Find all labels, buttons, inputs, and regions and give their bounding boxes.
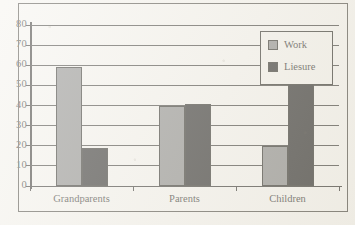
- x-tick-label-children: Children: [269, 193, 306, 204]
- x-tick-mark: [339, 186, 340, 191]
- chart-figure: 80706050403020100 GrandparentsParentsChi…: [0, 0, 355, 225]
- x-tick-label-parents: Parents: [169, 193, 200, 204]
- y-tick-label: 30: [1, 119, 27, 130]
- x-axis-line: [26, 186, 342, 187]
- legend-swatch-work-icon: [268, 40, 278, 50]
- bar-grandparents-work: [56, 67, 82, 186]
- chart-legend: Work Liesure: [260, 31, 333, 85]
- y-tick-label: 80: [1, 18, 27, 29]
- legend-label-liesure: Liesure: [284, 62, 316, 73]
- figure-frame-top-rule: [18, 3, 348, 4]
- x-tick-label-grandparents: Grandparents: [53, 193, 110, 204]
- y-tick-label: 60: [1, 58, 27, 69]
- y-tick-label: 50: [1, 78, 27, 89]
- y-tick-label: 70: [1, 38, 27, 49]
- legend-label-work: Work: [284, 40, 307, 51]
- y-tick-label: 10: [1, 159, 27, 170]
- bar-grandparents-liesure: [82, 148, 108, 186]
- legend-item-liesure: Liesure: [268, 62, 316, 73]
- figure-frame-bottom-rule: [18, 211, 348, 212]
- x-tick-mark: [30, 186, 31, 191]
- y-tick-label: 20: [1, 139, 27, 150]
- gridline: [30, 25, 339, 26]
- figure-frame-left-rule: [18, 3, 19, 212]
- y-tick-label: 0: [1, 179, 27, 190]
- legend-item-work: Work: [268, 40, 307, 51]
- y-tick-label: 40: [1, 99, 27, 110]
- legend-swatch-liesure-icon: [268, 62, 278, 72]
- figure-frame-right-rule: [347, 3, 348, 212]
- bar-parents-work: [159, 106, 185, 187]
- x-tick-mark: [236, 186, 237, 191]
- bar-children-work: [262, 146, 288, 186]
- x-tick-mark: [133, 186, 134, 191]
- bar-parents-liesure: [185, 104, 211, 187]
